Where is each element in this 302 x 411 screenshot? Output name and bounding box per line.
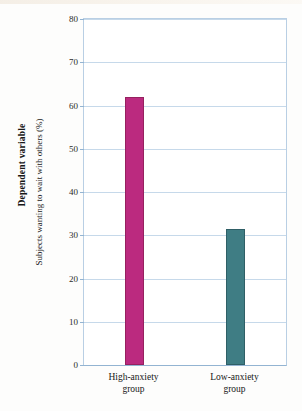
y-tick-label: 80 [56, 15, 78, 24]
y-tick-label: 60 [56, 101, 78, 110]
bar-low-anxiety [226, 229, 245, 365]
y-tick-label: 30 [56, 231, 78, 240]
y-tick-label: 20 [56, 274, 78, 283]
y-gridline [84, 62, 286, 63]
y-tick-mark [80, 279, 84, 280]
x-axis-label-high-anxiety-line2: group [88, 384, 180, 396]
y-tick-mark [80, 192, 84, 193]
y-tick-mark [80, 365, 84, 366]
y-gridline [84, 322, 286, 323]
y-tick-mark [80, 149, 84, 150]
y-tick-mark [80, 322, 84, 323]
figure-canvas: Dependent variable Subjects wanting to w… [0, 0, 302, 411]
x-axis-label-low-anxiety-line2: group [189, 384, 281, 396]
y-tick-label: 10 [56, 317, 78, 326]
y-gridline [84, 192, 286, 193]
y-tick-mark [80, 62, 84, 63]
dependent-variable-label: Dependent variable [17, 100, 27, 230]
y-gridline [84, 106, 286, 107]
x-axis-label-low-anxiety: Low-anxiety group [189, 372, 281, 395]
y-tick-label: 50 [56, 144, 78, 153]
y-tick-label: 0 [56, 361, 78, 370]
y-gridline [84, 279, 286, 280]
x-axis-label-low-anxiety-line1: Low-anxiety [189, 372, 281, 384]
y-gridline [84, 19, 286, 20]
y-tick-mark [80, 235, 84, 236]
y-axis-title: Subjects wanting to wait with others (%) [34, 62, 44, 322]
y-gridline [84, 235, 286, 236]
y-tick-label: 70 [56, 58, 78, 67]
bar-high-anxiety [125, 97, 144, 365]
plot-area: 80706050403020100 [83, 18, 287, 366]
y-tick-mark [80, 106, 84, 107]
y-tick-mark [80, 19, 84, 20]
scan-tint-strip [0, 0, 302, 4]
x-axis-label-high-anxiety-line1: High-anxiety [88, 372, 180, 384]
y-gridline [84, 149, 286, 150]
x-axis-label-high-anxiety: High-anxiety group [88, 372, 180, 395]
y-tick-label: 40 [56, 188, 78, 197]
